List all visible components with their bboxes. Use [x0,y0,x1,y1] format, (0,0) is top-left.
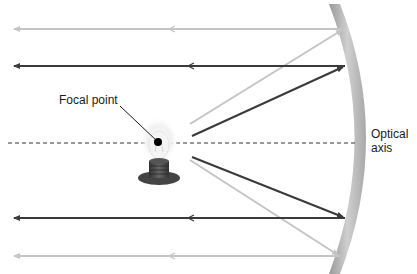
ray-top-dark-incident [192,67,343,136]
ray-bottom-dark-incident [192,157,343,217]
parabolic-mirror [329,4,366,274]
focal-point-label: Focal point [59,93,118,107]
reflector-diagram [0,0,417,274]
focal-point-dot [154,138,162,146]
light-bulb-icon [138,116,180,185]
optical-axis-label-line2: axis [371,141,408,155]
ray-bottom-light-incident [190,160,338,255]
optical-axis-label: Optical axis [371,127,408,155]
optical-axis-label-line1: Optical [371,127,408,141]
